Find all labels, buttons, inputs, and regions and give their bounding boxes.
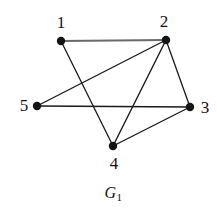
vertex-2-node (162, 36, 170, 44)
edge-2-5 (37, 40, 166, 106)
edge-1-2 (61, 40, 166, 41)
edges-group (37, 40, 190, 146)
edge-2-4 (113, 40, 166, 146)
vertex-3-node (186, 103, 194, 111)
vertex-5-label: 5 (20, 97, 29, 114)
vertex-1-node (57, 37, 65, 45)
figure-caption-letter: G (104, 184, 116, 201)
vertex-4-node (109, 142, 117, 150)
vertex-4-label: 4 (110, 155, 119, 172)
graph-drawing (0, 0, 217, 209)
vertex-3-label: 3 (201, 99, 210, 116)
edge-1-4 (61, 41, 113, 146)
vertex-5-node (33, 102, 41, 110)
edge-5-3 (37, 106, 190, 107)
vertex-2-label: 2 (160, 13, 169, 30)
graph-figure: 12345 G1 (0, 0, 217, 209)
edge-4-3 (113, 107, 190, 146)
edge-2-3 (166, 40, 190, 107)
figure-caption-subscript: 1 (117, 191, 123, 203)
vertex-1-label: 1 (57, 14, 66, 31)
figure-caption: G1 (104, 185, 121, 201)
